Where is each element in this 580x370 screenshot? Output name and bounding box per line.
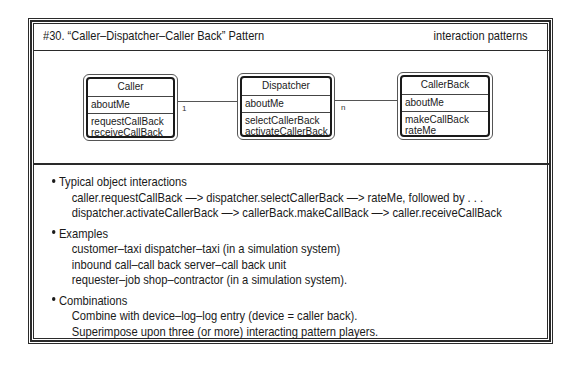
note-line: inbound call–call back server–call back …: [52, 257, 502, 273]
pattern-category: interaction patterns: [434, 28, 528, 43]
connector-caller-dispatcher: [178, 101, 237, 102]
class-service: requestCallBack: [91, 116, 170, 127]
multiplicity-label: 1: [182, 104, 186, 113]
note-line: Superimpose upon three (or more) interac…: [52, 324, 502, 340]
class-service: rateMe: [405, 125, 485, 136]
class-name: Caller: [88, 79, 173, 97]
multiplicity-label: n: [341, 103, 345, 112]
class-services: selectCallerBack activateCallerBack: [242, 113, 330, 139]
class-box-callerback: CallerBack aboutMe makeCallBack rateMe: [397, 72, 493, 140]
notes-section-interactions: Typical object interactions caller.reque…: [52, 174, 575, 221]
pattern-title: #30. “Caller–Dispatcher–Caller Back” Pat…: [43, 28, 264, 43]
notes-section-examples: Examples customer–taxi dispatcher–taxi (…: [52, 226, 575, 288]
note-line: caller.requestCallBack —> dispatcher.sel…: [52, 190, 502, 206]
bullet-heading: Typical object interactions: [52, 174, 502, 190]
pattern-notes: Typical object interactions caller.reque…: [52, 174, 575, 344]
note-line: Combine with device–log–log entry (devic…: [52, 308, 502, 324]
class-attribute: aboutMe: [88, 97, 173, 114]
class-attribute: aboutMe: [242, 96, 330, 113]
bullet-heading: Examples: [52, 226, 502, 242]
diagram-divider: [33, 163, 551, 165]
class-box-inner: Caller aboutMe requestCallBack receiveCa…: [86, 77, 175, 138]
notes-section-combinations: Combinations Combine with device–log–log…: [52, 293, 575, 340]
class-attribute: aboutMe: [402, 95, 488, 112]
connector-dispatcher-callerback: [335, 100, 397, 101]
class-service: receiveCallBack: [91, 127, 170, 138]
class-box-dispatcher: Dispatcher aboutMe selectCallerBack acti…: [237, 73, 335, 140]
class-service: activateCallerBack: [245, 126, 327, 137]
heading-text: Examples: [59, 226, 108, 241]
class-box-inner: CallerBack aboutMe makeCallBack rateMe: [400, 75, 490, 137]
class-box-caller: Caller aboutMe requestCallBack receiveCa…: [83, 74, 178, 141]
bullet-heading: Combinations: [52, 293, 502, 309]
bullet-icon: [52, 179, 55, 183]
bullet-icon: [52, 297, 55, 301]
class-name: Dispatcher: [242, 78, 330, 96]
bullet-icon: [52, 230, 55, 234]
note-line: dispatcher.activateCallerBack —> callerB…: [52, 205, 502, 221]
heading-text: Combinations: [59, 293, 127, 308]
note-line: customer–taxi dispatcher–taxi (in a simu…: [52, 241, 502, 257]
heading-text: Typical object interactions: [59, 174, 187, 189]
note-line: requester–job shop–contractor (in a simu…: [52, 272, 502, 288]
class-services: makeCallBack rateMe: [402, 112, 488, 138]
class-box-inner: Dispatcher aboutMe selectCallerBack acti…: [240, 76, 332, 137]
class-name: CallerBack: [402, 77, 488, 95]
class-service: selectCallerBack: [245, 115, 327, 126]
class-services: requestCallBack receiveCallBack: [88, 114, 173, 140]
class-service: makeCallBack: [405, 114, 485, 125]
header-divider: [33, 50, 551, 51]
